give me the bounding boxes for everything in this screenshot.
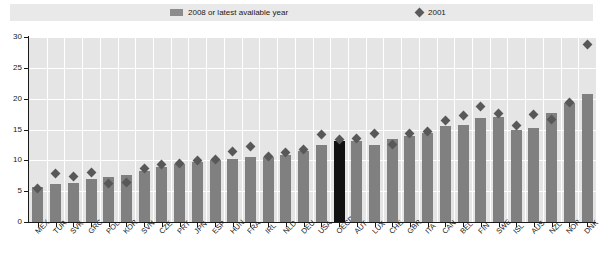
- bar-aus: [528, 128, 539, 222]
- bar-bel: [458, 125, 469, 222]
- bar-cze: [156, 167, 167, 223]
- x-axis-tick: [215, 223, 216, 227]
- bar-nld: [280, 155, 291, 222]
- gridline-vertical: [47, 37, 48, 222]
- y-axis-tick: [24, 191, 29, 192]
- x-axis-tick: [126, 223, 127, 227]
- bar-isl: [511, 130, 522, 222]
- x-axis-tick: [499, 223, 500, 227]
- gridline-vertical: [188, 37, 189, 222]
- y-axis-tick-label: 10: [2, 156, 22, 164]
- gridline-vertical: [171, 37, 172, 222]
- gridline-vertical: [224, 37, 225, 222]
- x-axis-tick: [569, 223, 570, 227]
- x-axis-tick: [268, 223, 269, 227]
- x-axis-tick: [445, 223, 446, 227]
- bar-svk: [68, 183, 79, 222]
- y-axis-tick: [24, 37, 29, 38]
- bar-nor: [564, 103, 575, 222]
- gridline-vertical: [383, 37, 384, 222]
- gridline-vertical: [82, 37, 83, 222]
- bar-svn: [139, 171, 150, 222]
- bar-nzl: [546, 113, 557, 222]
- legend-item-points: 2001: [416, 4, 446, 21]
- gridline-vertical: [507, 37, 508, 222]
- bar-swatch-icon: [170, 9, 183, 16]
- bar-swe: [493, 117, 504, 222]
- gridline-vertical: [295, 37, 296, 222]
- x-axis-tick: [144, 223, 145, 227]
- bar-aut: [351, 141, 362, 222]
- gridline-vertical: [242, 37, 243, 222]
- bar-oecd: [334, 141, 345, 222]
- bar-grc: [86, 179, 97, 222]
- x-axis-tick: [357, 223, 358, 227]
- bar-che: [387, 139, 398, 222]
- gridline-vertical: [118, 37, 119, 222]
- x-axis-tick: [516, 223, 517, 227]
- x-axis-tick: [428, 223, 429, 227]
- bar-irl: [263, 157, 274, 222]
- gridline-vertical: [206, 37, 207, 222]
- bar-deu: [298, 151, 309, 222]
- gridline-vertical: [490, 37, 491, 222]
- bar-usa: [316, 145, 327, 222]
- bar-lux: [369, 145, 380, 222]
- gridline-vertical: [100, 37, 101, 222]
- gridline-vertical: [153, 37, 154, 222]
- x-axis-label-irl: IRL: [264, 222, 278, 236]
- bar-can: [440, 126, 451, 222]
- y-axis-tick-labels: 051015202530: [0, 0, 22, 259]
- bar-gbr: [404, 136, 415, 222]
- bar-tur: [50, 184, 61, 222]
- x-axis-tick: [552, 223, 553, 227]
- gridline-vertical: [348, 37, 349, 222]
- x-axis-tick: [109, 223, 110, 227]
- x-axis-tick: [91, 223, 92, 227]
- gridline-vertical: [578, 37, 579, 222]
- gridline-vertical: [313, 37, 314, 222]
- y-axis-tick: [24, 160, 29, 161]
- x-axis-tick: [392, 223, 393, 227]
- bar-fra: [245, 157, 256, 222]
- legend-label-points: 2001: [428, 9, 446, 17]
- x-axis-tick: [250, 223, 251, 227]
- y-axis-tick: [24, 130, 29, 131]
- x-axis-tick: [339, 223, 340, 227]
- gridline-vertical: [135, 37, 136, 222]
- x-axis-tick: [73, 223, 74, 227]
- x-axis-tick: [587, 223, 588, 227]
- gridline-vertical: [366, 37, 367, 222]
- gridline-vertical: [454, 37, 455, 222]
- diamond-marker-icon: [415, 8, 425, 18]
- x-axis-tick: [197, 223, 198, 227]
- y-axis-tick: [24, 222, 29, 223]
- bar-prt: [174, 164, 185, 222]
- gridline-vertical: [472, 37, 473, 222]
- x-axis-tick: [286, 223, 287, 227]
- x-axis-tick: [38, 223, 39, 227]
- gridline-vertical: [259, 37, 260, 222]
- gridline-vertical: [419, 37, 420, 222]
- x-axis-tick: [233, 223, 234, 227]
- bar-hun: [227, 159, 238, 222]
- x-axis-tick: [481, 223, 482, 227]
- bar-ita: [422, 133, 433, 222]
- gridline-vertical: [525, 37, 526, 222]
- legend-item-bars: 2008 or latest available year: [170, 4, 288, 21]
- legend-label-bars: 2008 or latest available year: [188, 9, 288, 17]
- x-axis-label-fin: FIN: [477, 221, 491, 235]
- x-axis-tick: [180, 223, 181, 227]
- x-axis-tick-labels: MEXTURSVKGRCPOLKORSVNCZEPRTJPNESPHUNFRAI…: [0, 226, 603, 259]
- y-axis-tick-label: 20: [2, 95, 22, 103]
- gridline-vertical: [543, 37, 544, 222]
- y-axis-tick-label: 30: [2, 33, 22, 41]
- y-axis-tick-label: 15: [2, 126, 22, 134]
- x-axis-tick: [375, 223, 376, 227]
- x-axis-tick: [56, 223, 57, 227]
- x-axis-label-isl: ISL: [512, 222, 525, 235]
- x-axis-tick: [321, 223, 322, 227]
- x-axis-tick: [304, 223, 305, 227]
- gridline-vertical: [561, 37, 562, 222]
- bar-jpn: [192, 162, 203, 222]
